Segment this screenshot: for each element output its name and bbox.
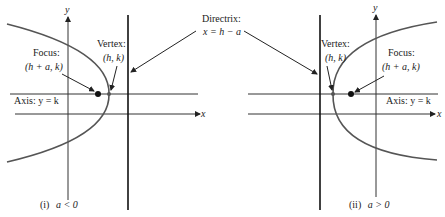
directrix-pointer-right bbox=[244, 31, 317, 74]
focus-point-right bbox=[348, 91, 354, 97]
x-axis-label-left: x bbox=[200, 108, 206, 119]
parabola-diagram: x y Focus: (h + a, k) Vertex: (h, k) Axi… bbox=[0, 0, 445, 217]
panel-left: x y Focus: (h + a, k) Vertex: (h, k) Axi… bbox=[7, 4, 206, 211]
vertex-coords-right: (h, k) bbox=[325, 52, 347, 64]
caption-right: (ii) a > 0 bbox=[349, 199, 389, 211]
vertex-title-right: Vertex: bbox=[321, 38, 350, 49]
focus-pointer-right bbox=[355, 76, 384, 92]
vertex-pointer-left bbox=[111, 66, 117, 90]
focus-point-left bbox=[95, 91, 101, 97]
directrix-title: Directrix: bbox=[202, 13, 241, 24]
directrix-label: Directrix: x = h − a bbox=[131, 13, 317, 74]
focus-pointer-left bbox=[62, 74, 94, 91]
caption-left: (i) a < 0 bbox=[40, 199, 78, 211]
focus-title-right: Focus: bbox=[388, 47, 415, 58]
axis-label-right: Axis: y = k bbox=[386, 95, 431, 106]
y-axis-label-right: y bbox=[372, 2, 378, 13]
focus-title-left: Focus: bbox=[33, 47, 60, 58]
y-axis-label-left: y bbox=[64, 4, 70, 15]
focus-coords-right: (h + a, k) bbox=[382, 61, 421, 73]
panel-right: x y Vertex: (h, k) Focus: (h + a, k) Axi… bbox=[248, 2, 442, 211]
directrix-equation: x = h − a bbox=[202, 26, 241, 37]
x-axis-label-right: x bbox=[436, 108, 442, 119]
vertex-point-left bbox=[107, 92, 111, 96]
parabola-left bbox=[7, 24, 109, 162]
vertex-pointer-right bbox=[327, 66, 332, 90]
vertex-point-right bbox=[331, 92, 335, 96]
focus-coords-left: (h + a, k) bbox=[25, 61, 64, 73]
vertex-title-left: Vertex: bbox=[97, 38, 126, 49]
axis-label-left: Axis: y = k bbox=[14, 95, 59, 106]
vertex-coords-left: (h, k) bbox=[103, 52, 125, 64]
directrix-pointer-left bbox=[131, 31, 196, 72]
